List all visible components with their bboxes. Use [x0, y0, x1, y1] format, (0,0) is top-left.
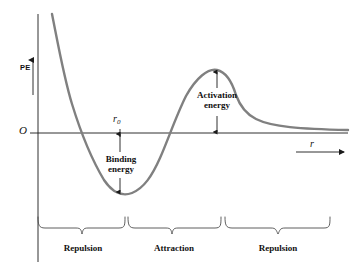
region-label-repulsion-left: Repulsion	[40, 243, 126, 253]
r0-label: r0	[113, 114, 120, 127]
binding-energy-label-line2: energy	[95, 165, 147, 175]
y-axis-label: PE	[20, 64, 31, 72]
region-label-attraction: Attraction	[126, 243, 222, 253]
x-axis-label: r	[310, 139, 314, 150]
activation-energy-label: Activation energy	[186, 91, 248, 110]
region-label-repulsion-right: Repulsion	[224, 243, 332, 253]
activation-energy-label-line2: energy	[186, 101, 248, 111]
origin-label: O	[19, 125, 27, 137]
curly-brace-down-icon-2	[225, 217, 330, 234]
curly-brace-down-icon-1	[128, 217, 221, 234]
plot-canvas	[0, 0, 354, 272]
binding-energy-label: Binding energy	[95, 155, 147, 174]
r0-label-subscript: 0	[117, 118, 121, 126]
curly-brace-down-icon-0	[38, 217, 125, 234]
potential-energy-diagram: PE O r r0 Binding energy Activation ener…	[0, 0, 354, 272]
